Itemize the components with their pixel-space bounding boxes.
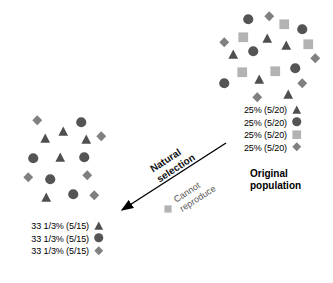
selected-population-legend: 33 1/3% (5/15)33 1/3% (5/15)33 1/3% (5/1… [17,220,105,258]
original-legend-row: 25% (5/20) [232,142,303,155]
square-icon [270,66,281,77]
selected-legend-label: 33 1/3% (5/15) [17,245,89,258]
selected-legend-row: 33 1/3% (5/15) [17,233,105,246]
circle-icon [297,24,308,35]
original-legend-label: 25% (5/20) [232,117,287,130]
selected-legend-row: 33 1/3% (5/15) [17,220,105,233]
diamond-icon [32,115,43,126]
natural-selection-label: Natural selection [148,142,197,185]
original-legend-label: 25% (5/20) [232,129,287,142]
triangle-icon [292,105,303,116]
triangle-icon [254,74,265,85]
triangle-icon [41,192,52,203]
circle-icon [79,152,90,163]
triangle-icon [262,33,273,44]
square-icon [238,32,249,43]
original-legend-label: 25% (5/20) [232,142,287,155]
circle-icon [243,14,254,25]
triangle-icon [228,49,239,60]
circle-icon [28,153,39,164]
evolution-diagram: 25% (5/20)25% (5/20)25% (5/20)25% (5/20)… [0,0,333,283]
diamond-icon [219,37,230,48]
diamond-icon [96,131,107,142]
square-icon [237,67,248,78]
selected-legend-label: 33 1/3% (5/15) [17,220,89,233]
triangle-icon [40,133,51,144]
square-icon [303,39,314,50]
original-population-legend: 25% (5/20)25% (5/20)25% (5/20)25% (5/20) [232,104,303,154]
triangle-icon [58,126,69,137]
diamond-icon [23,172,34,183]
triangle-icon [283,89,294,100]
diamond-icon [297,78,308,89]
triangle-icon [281,40,292,51]
original-population-caption: Original population [250,168,301,192]
caption-line-2: population [250,180,301,192]
diamond-icon [252,92,263,103]
circle-icon [94,233,105,244]
square-icon [164,199,172,207]
circle-icon [76,117,87,128]
triangle-icon [94,221,105,232]
original-legend-row: 25% (5/20) [232,129,303,142]
triangle-icon [55,152,66,163]
selected-legend-row: 33 1/3% (5/15) [17,245,105,258]
diamond-icon [264,11,275,22]
caption-line-1: Original [250,168,301,180]
diamond-icon [292,142,303,153]
diamond-icon [82,170,93,181]
triangle-icon [81,134,92,145]
original-legend-row: 25% (5/20) [232,117,303,130]
circle-icon [219,78,230,89]
circle-icon [45,174,56,185]
original-legend-label: 25% (5/20) [232,104,287,117]
diamond-icon [89,190,100,201]
square-icon [292,130,303,141]
diamond-icon [310,53,321,64]
original-legend-row: 25% (5/20) [232,104,303,117]
circle-icon [248,46,259,57]
circle-icon [292,117,303,128]
selected-legend-label: 33 1/3% (5/15) [17,233,89,246]
diamond-icon [94,246,105,257]
cannot-reproduce-label: Cannot reproduce [172,174,218,214]
circle-icon [68,189,79,200]
circle-icon [290,63,301,74]
square-icon [279,19,290,30]
